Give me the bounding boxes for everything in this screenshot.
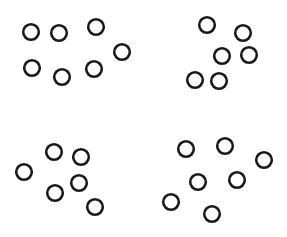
dot-circle-icon [163,194,179,210]
bottom-left-cluster [16,144,103,215]
dot-array-canvas [0,0,287,237]
dot-circle-icon [229,172,245,188]
dot-circle-icon [241,47,257,63]
dot-circle-icon [46,144,62,160]
top-right-cluster [187,17,257,89]
dot-circle-icon [54,69,70,85]
dot-circle-icon [87,199,103,215]
dot-circle-icon [256,152,272,168]
dot-circle-icon [217,138,233,154]
dot-circle-icon [23,24,39,40]
dot-array-stimulus [0,0,287,237]
bottom-right-cluster [163,138,272,222]
top-left-cluster [23,19,130,85]
dot-circle-icon [114,44,130,60]
dot-circle-icon [214,48,230,64]
dot-circle-icon [86,61,102,77]
dot-circle-icon [24,60,40,76]
dot-circle-icon [71,175,87,191]
dot-circle-icon [16,164,32,180]
dot-circle-icon [51,25,67,41]
dot-circle-icon [187,72,203,88]
dot-circle-icon [204,206,220,222]
dot-circle-icon [211,73,227,89]
dot-circle-icon [178,141,194,157]
dot-circle-icon [88,19,104,35]
dot-circle-icon [190,174,206,190]
dot-circle-icon [199,17,215,33]
dot-circle-icon [73,149,89,165]
dot-circle-icon [235,25,251,41]
dot-circle-icon [47,185,63,201]
